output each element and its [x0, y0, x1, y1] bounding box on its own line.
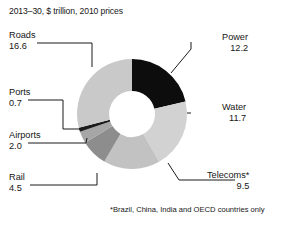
callout-power-label: Power [222, 32, 248, 43]
callout-power-value: 12.2 [222, 43, 248, 54]
slice-roads[interactable] [77, 59, 132, 128]
callout-rail-value: 4.5 [9, 183, 25, 194]
donut-chart [0, 0, 292, 230]
leader-line-ports [28, 100, 83, 129]
callout-ports-label: Ports [9, 87, 30, 98]
leader-line-roads [37, 43, 92, 67]
chart-footnote: *Brazil, China, India and OECD countries… [110, 205, 264, 214]
callout-airports: Airports 2.0 [9, 130, 41, 152]
callout-roads: Roads 16.6 [9, 30, 36, 52]
callout-water: Water 11.7 [222, 102, 246, 124]
callout-airports-label: Airports [9, 130, 41, 141]
donut-slices-render [77, 59, 187, 169]
callout-water-label: Water [222, 102, 246, 113]
callout-telecoms: Telecoms* 9.5 [207, 170, 249, 192]
callout-ports: Ports 0.7 [9, 87, 30, 109]
callout-power: Power 12.2 [222, 32, 248, 54]
chart-figure: 2013–30, $ trillion, 2010 prices Power 1… [0, 0, 292, 230]
callout-telecoms-value: 9.5 [207, 181, 249, 192]
callout-roads-label: Roads [9, 30, 36, 41]
callout-roads-value: 16.6 [9, 41, 36, 52]
callout-telecoms-label: Telecoms* [207, 170, 249, 181]
slice-power[interactable] [132, 59, 186, 109]
callout-water-value: 11.7 [222, 113, 246, 124]
callout-rail: Rail 4.5 [9, 172, 25, 194]
callout-rail-label: Rail [9, 172, 25, 183]
leader-line-power [171, 42, 191, 73]
callout-airports-value: 2.0 [9, 141, 41, 152]
callout-ports-value: 0.7 [9, 98, 30, 109]
leader-line-rail [30, 173, 97, 185]
